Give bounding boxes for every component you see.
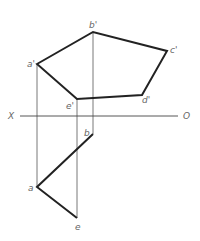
label-c-prime: c'	[170, 45, 177, 55]
axis-label-o: O	[183, 111, 190, 121]
label-d-prime: d'	[142, 95, 150, 105]
label-b: b	[84, 128, 90, 138]
label-e: e	[75, 222, 81, 232]
label-a: a	[28, 183, 34, 193]
label-e-prime: e'	[66, 101, 74, 111]
label-b-prime: b'	[89, 20, 97, 30]
label-a-prime: a'	[27, 59, 35, 69]
top-view-polyline	[37, 134, 93, 218]
axis-label-x: X	[7, 111, 15, 121]
front-view-pentagon	[37, 32, 167, 99]
projection-diagram: X O a' b' c' d' e' b a e	[0, 0, 200, 241]
